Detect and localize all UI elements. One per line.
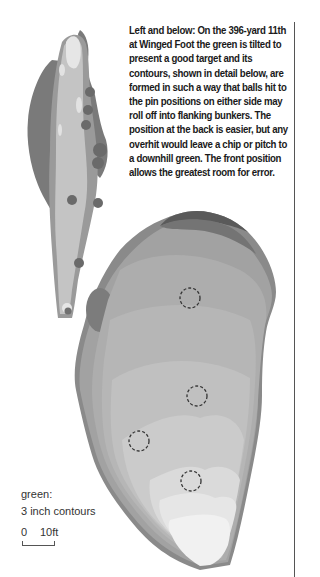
bunker-icon bbox=[59, 64, 65, 76]
bunker-icon bbox=[76, 97, 82, 113]
legend-subtitle: 3 inch contours bbox=[21, 503, 96, 520]
green-contour-map bbox=[75, 211, 276, 570]
legend: green: 3 inch contours bbox=[21, 486, 96, 520]
caption-text: Left and below: On the 396-yard 11th at … bbox=[129, 23, 291, 179]
hole-overview bbox=[27, 30, 107, 318]
scale-zero-label: 0 bbox=[21, 526, 27, 538]
scale-bar bbox=[22, 541, 55, 546]
fairway bbox=[55, 39, 87, 314]
page-rule bbox=[294, 22, 295, 577]
green-overview bbox=[66, 36, 81, 68]
scale-ten-label: 10ft bbox=[40, 526, 58, 538]
legend-title: green: bbox=[21, 486, 96, 503]
bunker-icon bbox=[58, 124, 62, 136]
